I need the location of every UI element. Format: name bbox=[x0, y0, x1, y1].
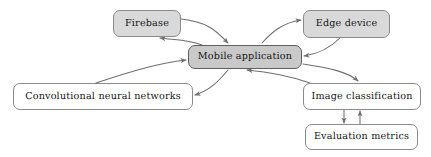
node-firebase[interactable]: Firebase bbox=[113, 10, 181, 37]
node-mobile-application[interactable]: Mobile application bbox=[188, 45, 302, 69]
edge-mobile-to-edge bbox=[262, 20, 301, 43]
node-edge-device-label: Edge device bbox=[315, 19, 379, 29]
node-image-classification-label: Image classification bbox=[310, 92, 413, 102]
node-evaluation-metrics-label: Evaluation metrics bbox=[313, 132, 410, 142]
edge-firebase-to-mobile bbox=[181, 19, 228, 43]
node-mobile-application-label: Mobile application bbox=[197, 52, 293, 62]
node-convolutional-neural-networks[interactable]: Convolutional neural networks bbox=[13, 83, 193, 110]
edge-mobile-to-image bbox=[303, 64, 358, 81]
edge-mobile-to-cnn bbox=[195, 70, 228, 95]
node-firebase-label: Firebase bbox=[124, 19, 170, 29]
diagram-canvas: Firebase Edge device Mobile application … bbox=[0, 0, 431, 157]
node-evaluation-metrics[interactable]: Evaluation metrics bbox=[305, 124, 418, 150]
node-image-classification[interactable]: Image classification bbox=[303, 83, 421, 110]
edge-edge-to-mobile bbox=[304, 38, 340, 56]
edge-cnn-to-mobile bbox=[96, 60, 186, 83]
edge-mobile-to-firebase bbox=[160, 38, 202, 45]
edge-image-to-mobile bbox=[247, 70, 310, 83]
node-edge-device[interactable]: Edge device bbox=[303, 10, 390, 38]
node-convolutional-neural-networks-label: Convolutional neural networks bbox=[24, 92, 182, 102]
